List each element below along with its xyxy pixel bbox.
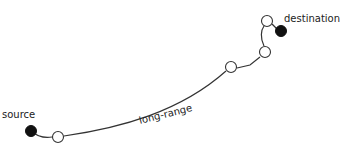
relay-node-1 [53,132,64,143]
relay-node-3 [260,47,271,58]
source-label: source [2,109,35,120]
edge-n2-n3 [237,57,260,68]
relay-node-2 [226,62,237,73]
network-path-diagram: source destination long-range [0,0,351,151]
destination-label: destination [284,13,340,24]
edge-long-range [64,71,226,136]
edge-n3-n4 [261,26,264,46]
relay-node-4 [262,16,273,27]
destination-node [276,26,287,37]
edge-label-long-range: long-range [138,102,193,126]
source-node [26,126,37,137]
